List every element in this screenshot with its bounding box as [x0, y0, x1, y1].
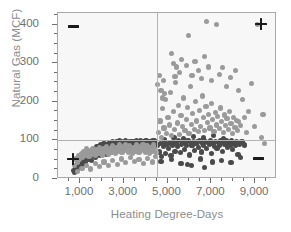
- data-point: [227, 109, 232, 114]
- data-point: [178, 161, 183, 166]
- y-axis-tick-label: 400: [0, 17, 39, 29]
- data-point: [260, 112, 265, 117]
- data-point: [189, 73, 194, 78]
- data-point: [169, 51, 174, 56]
- data-point: [221, 130, 226, 135]
- data-point: [181, 95, 186, 100]
- data-point: [88, 166, 93, 171]
- x-axis-tick: [167, 178, 168, 183]
- data-point: [177, 70, 182, 75]
- x-axis-minor-tick: [145, 178, 146, 181]
- data-point: [161, 125, 166, 130]
- x-axis-tick-label: 1,000: [54, 185, 104, 197]
- x-axis-tick: [254, 178, 255, 183]
- x-axis-minor-tick: [134, 178, 135, 181]
- data-point: [162, 91, 167, 96]
- x-axis-tick: [79, 178, 80, 183]
- data-point: [244, 130, 249, 135]
- data-point: [198, 156, 203, 161]
- data-point: [158, 159, 163, 164]
- data-point: [240, 97, 245, 102]
- data-point: [172, 127, 177, 132]
- data-point: [220, 149, 225, 154]
- data-point: [194, 118, 199, 123]
- quadrant-sign-bottom-right: [253, 153, 265, 165]
- data-point: [204, 19, 209, 24]
- data-points-layer: [58, 13, 275, 177]
- data-point: [206, 64, 211, 69]
- data-point: [160, 106, 165, 111]
- data-point: [172, 149, 177, 154]
- data-point: [262, 141, 267, 146]
- data-point: [246, 109, 251, 114]
- data-point: [193, 99, 198, 104]
- data-point: [197, 108, 202, 113]
- y-axis-tick-label: 100: [0, 132, 39, 144]
- data-point: [106, 163, 111, 168]
- data-point: [209, 78, 214, 83]
- data-point: [236, 88, 241, 93]
- data-point: [209, 101, 214, 106]
- data-point: [190, 111, 195, 116]
- data-point: [259, 135, 264, 140]
- x-axis-minor-tick: [221, 178, 222, 181]
- data-point: [161, 78, 166, 83]
- x-axis-tick-label: 3,000: [98, 185, 148, 197]
- data-point: [238, 123, 243, 128]
- data-point: [184, 117, 189, 122]
- quadrant-sign-bottom-left: [67, 153, 79, 165]
- data-point: [217, 72, 222, 77]
- data-point: [171, 109, 176, 114]
- data-point: [115, 162, 120, 167]
- data-point: [202, 54, 207, 59]
- data-point: [123, 160, 128, 165]
- data-point: [218, 105, 223, 110]
- data-point: [175, 120, 180, 125]
- data-point: [186, 33, 191, 38]
- data-point: [205, 120, 210, 125]
- x-axis-minor-tick: [265, 178, 266, 181]
- x-axis-minor-tick: [90, 178, 91, 181]
- data-point: [167, 122, 172, 127]
- x-axis-minor-tick: [101, 178, 102, 181]
- x-axis-tick-label: 7,000: [185, 185, 235, 197]
- data-point: [214, 22, 219, 27]
- data-point: [179, 57, 184, 62]
- data-point: [184, 63, 189, 68]
- data-point: [206, 112, 211, 117]
- data-point: [235, 128, 240, 133]
- data-point: [224, 84, 229, 89]
- data-point: [160, 95, 165, 100]
- data-point: [199, 76, 204, 81]
- data-point: [230, 131, 235, 136]
- data-point: [228, 75, 233, 80]
- data-point: [176, 103, 181, 108]
- data-point: [186, 131, 191, 136]
- data-point: [220, 65, 225, 70]
- data-point: [185, 105, 190, 110]
- data-point: [196, 129, 201, 134]
- quadrant-sign-top-left: [68, 21, 80, 33]
- data-point: [191, 134, 196, 139]
- data-point: [178, 113, 183, 118]
- x-axis-tick-label: 9,000: [229, 185, 279, 197]
- data-point: [252, 124, 257, 129]
- data-point: [196, 68, 201, 73]
- x-axis-minor-tick: [68, 178, 69, 181]
- data-point: [238, 155, 243, 160]
- x-axis-minor-tick: [156, 178, 157, 181]
- scatter-chart: Natural Gas (MCF) Heating Degree-Days 01…: [0, 0, 291, 232]
- y-axis-tick-label: 0: [0, 171, 39, 183]
- data-point: [188, 84, 193, 89]
- data-point: [141, 161, 146, 166]
- x-axis-tick: [123, 178, 124, 183]
- data-point: [97, 164, 102, 169]
- data-point: [200, 93, 205, 98]
- data-point: [249, 81, 254, 86]
- y-axis-tick-label: 300: [0, 55, 39, 67]
- data-point: [219, 158, 224, 163]
- data-point: [165, 115, 170, 120]
- quadrant-sign-top-right: [255, 18, 267, 30]
- data-point: [172, 74, 177, 79]
- x-axis-tick-label: 5,000: [142, 185, 192, 197]
